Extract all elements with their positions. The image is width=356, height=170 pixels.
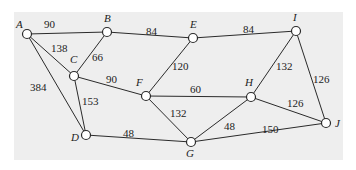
node-label-d: D (70, 131, 79, 143)
node-label-e: E (189, 18, 197, 30)
edge-weight-h-j: 126 (287, 97, 304, 109)
node-label-f: F (135, 76, 143, 88)
node-label-b: B (104, 12, 111, 24)
edge-weight-i-j: 126 (313, 73, 330, 85)
edge-weight-b-c: 66 (92, 51, 104, 63)
node-f (142, 92, 151, 101)
node-g (187, 138, 196, 147)
node-label-a: A (15, 18, 23, 30)
node-j (322, 119, 331, 128)
edge-weight-a-c: 138 (51, 42, 68, 54)
edge-weight-c-d: 153 (82, 95, 99, 107)
edge-weight-a-b: 90 (44, 18, 56, 30)
edge-weight-b-e: 84 (146, 25, 158, 37)
graph-diagram: 9013838466849015312084601324813212612648… (0, 0, 356, 170)
node-h (247, 93, 256, 102)
edge-weight-e-f: 120 (172, 60, 189, 72)
edge-weight-i-h: 132 (276, 60, 293, 72)
edge-weight-e-i: 84 (243, 23, 255, 35)
node-d (82, 131, 91, 140)
node-label-c: C (70, 53, 78, 65)
node-label-g: G (186, 147, 194, 159)
node-a (23, 30, 32, 39)
node-label-h: H (244, 76, 254, 88)
node-i (292, 27, 301, 36)
edge-weight-d-g: 48 (123, 127, 135, 139)
node-e (189, 34, 198, 43)
edge-weight-c-f: 90 (106, 73, 118, 85)
edge-weight-f-h: 60 (190, 83, 202, 95)
edge-weight-f-g: 132 (170, 107, 187, 119)
edge-weight-g-j: 150 (262, 123, 279, 135)
edge-weight-a-d: 384 (30, 81, 47, 93)
edge-weight-h-g: 48 (224, 120, 236, 132)
node-c (70, 72, 79, 81)
node-b (103, 28, 112, 37)
